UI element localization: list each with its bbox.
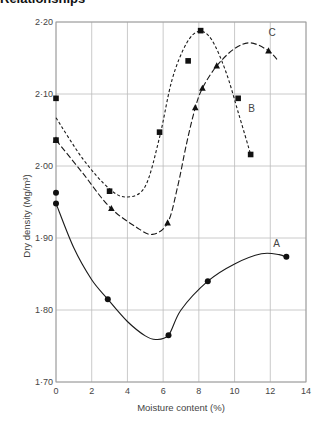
curve-a (56, 203, 286, 339)
y-tick-label: 1·80 (35, 305, 53, 315)
grid-lines (56, 22, 306, 382)
y-tick-label: 2·20 (35, 17, 53, 27)
x-tick-label: 14 (301, 386, 311, 396)
x-tick-label: 12 (265, 386, 275, 396)
plot-border (56, 22, 306, 382)
x-tick-label: 6 (161, 386, 166, 396)
curve-b (56, 31, 251, 197)
x-tick-label: 10 (230, 386, 240, 396)
triangle-marker (164, 219, 171, 225)
y-axis-ticks: 1·701·801·902·002·102·20 (35, 17, 53, 387)
x-tick-label: 0 (53, 386, 58, 396)
curve-label-c: C (268, 27, 275, 38)
square-marker (157, 129, 163, 135)
y-tick-label: 1·70 (35, 377, 53, 387)
curve-label-b: B (248, 103, 255, 114)
circle-marker (205, 278, 211, 284)
y-tick-label: 2·10 (35, 89, 53, 99)
x-tick-label: 8 (196, 386, 201, 396)
circle-marker (283, 254, 289, 260)
square-marker (53, 96, 59, 102)
plot-frame (56, 22, 306, 382)
triangle-marker (199, 85, 206, 91)
compaction-chart: 02468101214 1·701·801·902·002·102·20 ABC… (0, 0, 326, 425)
data-markers (53, 28, 290, 338)
y-tick-label: 2·00 (35, 161, 53, 171)
square-marker (107, 188, 113, 194)
x-tick-label: 2 (89, 386, 94, 396)
square-marker (198, 28, 204, 34)
y-tick-label: 1·90 (35, 233, 53, 243)
x-axis-label: Moisture content (%) (137, 402, 225, 413)
y-axis-label: Dry density (Mg/m³) (21, 174, 32, 257)
curve-label-a: A (273, 238, 280, 249)
circle-marker (53, 200, 59, 206)
square-marker (248, 152, 254, 158)
curve-c (56, 43, 278, 235)
x-axis-ticks: 02468101214 (53, 386, 311, 396)
triangle-marker (192, 104, 199, 110)
curve-labels: ABC (248, 27, 280, 249)
circle-marker (53, 190, 59, 196)
x-tick-label: 4 (125, 386, 130, 396)
square-marker (185, 58, 191, 64)
triangle-marker (265, 47, 272, 53)
triangle-marker (108, 205, 115, 211)
square-marker (235, 96, 241, 102)
curves (56, 31, 286, 339)
circle-marker (105, 296, 111, 302)
circle-marker (166, 332, 172, 338)
